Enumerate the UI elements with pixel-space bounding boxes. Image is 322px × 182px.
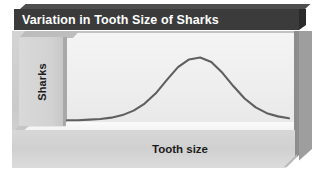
figure-container: Sharks Tooth size Variation in Tooth Siz…	[0, 0, 322, 182]
y-axis-label: Sharks	[10, 62, 74, 102]
x-axis-label: Tooth size	[70, 140, 290, 158]
title-bar-side-face	[299, 9, 306, 30]
y-axis-label-text: Sharks	[36, 63, 48, 100]
figure-title: Variation in Tooth Size of Sharks	[22, 11, 292, 29]
plot-panel	[66, 33, 294, 122]
